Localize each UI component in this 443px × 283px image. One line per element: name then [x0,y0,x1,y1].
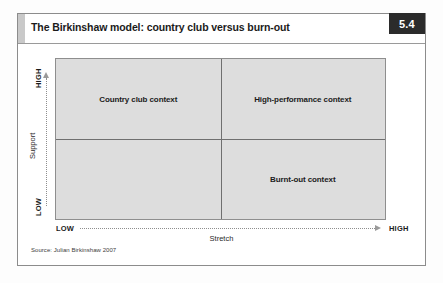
y-axis-label-low: LOW [34,198,43,216]
figure-title: The Birkinshaw model: country club versu… [31,21,290,33]
y-axis-label-high: HIGH [34,68,43,88]
figure-number-badge: 5.4 [389,13,425,34]
y-axis: HIGH LOW Support [32,58,56,220]
x-axis-label-high: HIGH [389,224,409,233]
y-axis-title: Support [28,133,37,159]
y-axis-dotted-line [46,78,47,206]
x-axis-title: Stretch [18,234,425,243]
quadrant-divider-horizontal [56,139,385,140]
figure-title-bar: The Birkinshaw model: country club versu… [18,14,425,44]
quadrant-label-burnt-out: Burnt-out context [270,175,335,184]
quadrant-matrix: Country club context High-performance co… [55,58,386,220]
quadrant-top-left: Country club context [56,59,221,139]
chart-body: HIGH LOW Support Country club context Hi… [18,44,425,267]
x-axis-arrow-icon [375,225,381,231]
figure-card: The Birkinshaw model: country club versu… [17,13,426,266]
quadrant-bottom-left [56,139,221,219]
figure-source: Source: Julian Birkinshaw 2007 [31,247,116,253]
figure-page: The Birkinshaw model: country club versu… [0,0,443,283]
title-accent-tab [18,14,25,43]
quadrant-bottom-right: Burnt-out context [221,139,386,219]
quadrant-top-right: High-performance context [221,59,386,139]
x-axis-dotted-line [80,228,375,229]
quadrant-label-country-club: Country club context [99,95,177,104]
x-axis-label-low: LOW [56,224,74,233]
quadrant-label-high-performance: High-performance context [254,95,351,104]
